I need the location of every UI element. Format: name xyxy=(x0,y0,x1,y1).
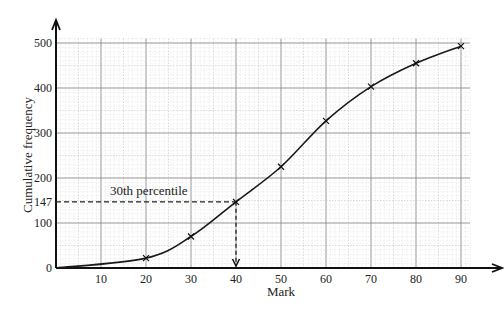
y-tick-label: 500 xyxy=(34,36,52,50)
x-tick-label: 90 xyxy=(455,272,467,286)
y-axis-label: Cumulative frequency xyxy=(20,97,35,213)
x-tick-label: 60 xyxy=(320,272,332,286)
x-tick-label: 20 xyxy=(140,272,152,286)
x-tick-label: 40 xyxy=(230,272,242,286)
axes xyxy=(52,20,502,272)
x-tick-label: 30 xyxy=(185,272,197,286)
percentile-annotation: 30th percentile xyxy=(56,183,240,266)
x-tick-label: 80 xyxy=(410,272,422,286)
y-tick-label: 147 xyxy=(34,195,52,209)
y-tick-label: 200 xyxy=(34,171,52,185)
x-tick-label: 10 xyxy=(95,272,107,286)
annotation-label: 30th percentile xyxy=(110,183,188,198)
y-tick-label: 300 xyxy=(34,126,52,140)
cumulative-frequency-chart: 1020304050607080900100147200300400500 30… xyxy=(0,0,504,309)
y-tick-label: 0 xyxy=(46,261,52,275)
x-tick-label: 70 xyxy=(365,272,377,286)
y-tick-label: 100 xyxy=(34,216,52,230)
grid xyxy=(56,39,470,269)
x-axis-label: Mark xyxy=(267,284,296,299)
tick-labels: 1020304050607080900100147200300400500 xyxy=(34,36,467,286)
y-tick-label: 400 xyxy=(34,81,52,95)
